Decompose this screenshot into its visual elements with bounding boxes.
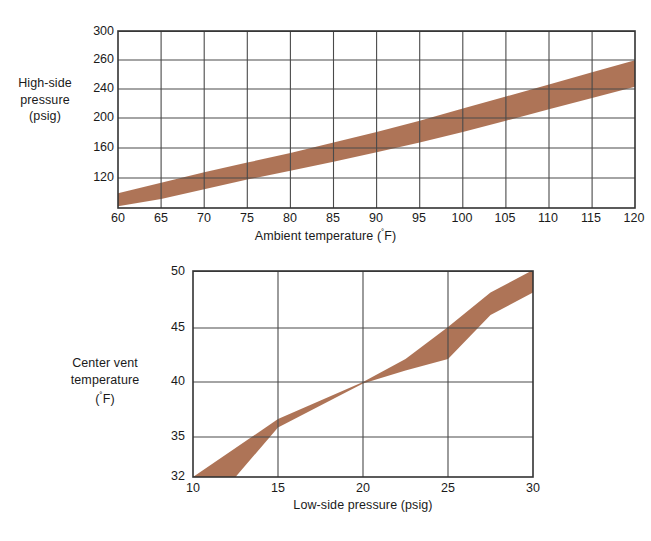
chart-1-y-axis-title-line-1: High-side (10, 75, 80, 92)
chart-1-x-axis-title-text: Ambient temperature ( (255, 229, 381, 243)
chart-2-xtick-15: 15 (258, 481, 298, 495)
chart-1-y-axis-title-line-2: pressure (10, 92, 80, 109)
chart-1-y-axis-title-line-3: (psig) (10, 108, 80, 125)
chart-2-y-axis-title-line-2: temperature (60, 372, 150, 389)
chart-1-xtick-65: 65 (141, 211, 181, 225)
chart-2-xtick-10: 10 (173, 481, 213, 495)
chart-1-xtick-95: 95 (399, 211, 439, 225)
chart-2-vertical-gridlines (278, 271, 448, 477)
chart-2-ytick-45: 45 (152, 320, 185, 334)
chart-2-ytick-35: 35 (152, 429, 185, 443)
chart-1-y-axis-title: High-side pressure (psig) (10, 75, 80, 125)
chart-1-xtick-75: 75 (227, 211, 267, 225)
chart-1-xtick-80: 80 (270, 211, 310, 225)
chart-1-xtick-110: 110 (528, 211, 568, 225)
chart-1-xtick-120: 120 (614, 211, 651, 225)
chart-2-y-axis-unit-close: F) (103, 392, 115, 406)
chart-1-xtick-60: 60 (98, 211, 138, 225)
chart-1-xtick-85: 85 (313, 211, 353, 225)
chart-1-ytick-200: 200 (78, 110, 114, 124)
chart-1-xtick-100: 100 (442, 211, 482, 225)
chart-high-side-pressure: 300 260 240 200 160 120 60 65 70 75 80 8… (0, 0, 651, 255)
chart-1-ytick-160: 160 (78, 140, 114, 154)
chart-2-y-axis-title-line-1: Center vent (60, 355, 150, 372)
chart-1-ytick-300: 300 (78, 24, 114, 38)
chart-2-x-axis-title: Low-side pressure (psig) (193, 498, 533, 512)
chart-1-ytick-260: 260 (78, 52, 114, 66)
chart-1-x-axis-title-unit: F) (384, 229, 396, 243)
chart-2-xtick-20: 20 (343, 481, 383, 495)
chart-center-vent-temperature: 50 45 40 35 32 10 15 20 25 30 Center ven… (0, 255, 651, 541)
chart-2-y-axis-title-line-3: (˚F) (60, 388, 150, 408)
chart-1-x-axis-title: Ambient temperature (˚F) (0, 228, 651, 243)
chart-2-xtick-25: 25 (428, 481, 468, 495)
chart-2-ytick-50: 50 (152, 264, 185, 278)
chart-1-ytick-120: 120 (78, 170, 114, 184)
chart-1-xtick-105: 105 (485, 211, 525, 225)
chart-1-ytick-240: 240 (78, 81, 114, 95)
chart-2-y-axis-title: Center vent temperature (˚F) (60, 355, 150, 408)
chart-2-ytick-40: 40 (152, 374, 185, 388)
chart-1-xtick-115: 115 (571, 211, 611, 225)
chart-1-xtick-90: 90 (356, 211, 396, 225)
chart-2-xtick-30: 30 (513, 481, 553, 495)
chart-1-xtick-70: 70 (184, 211, 224, 225)
